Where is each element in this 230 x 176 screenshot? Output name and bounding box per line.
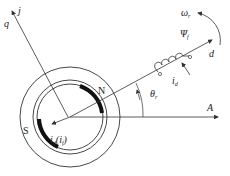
psi-label: Ψf — [180, 28, 190, 40]
q-axis — [12, 11, 68, 117]
theta-label: θr — [150, 88, 158, 100]
field-current-label: id(if) — [50, 134, 68, 146]
d-axis-label: d — [209, 48, 215, 59]
omega-arc — [198, 13, 220, 45]
omega-label: ωr — [181, 7, 191, 19]
d-axis — [70, 40, 212, 117]
diagram-canvas: q j d A N S ωr Ψf id θr id(if) — [0, 0, 230, 176]
south-pole-label: S — [23, 125, 29, 136]
a-axis-label: A — [206, 102, 214, 113]
id-label: id — [172, 75, 179, 87]
north-pole-label: N — [98, 85, 105, 96]
j-axis-label: j — [16, 5, 21, 16]
field-current-arrow — [52, 117, 70, 124]
id-arrow — [182, 63, 190, 75]
theta-arc — [136, 83, 143, 117]
d-winding-coil — [155, 53, 192, 75]
q-axis-label: q — [4, 18, 9, 29]
